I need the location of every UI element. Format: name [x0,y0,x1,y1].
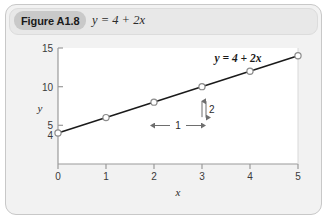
run-label: 1 [175,120,181,131]
equation-callout-label: y = 4 + 2x [213,52,262,65]
line-chart: 15 10 5 4 0 1 2 3 4 5 y x 1 2 y = 4 + 2x [0,0,327,220]
y-intercept-label: 4 [47,130,53,141]
y-tick-label-15: 15 [42,43,54,54]
x-tick-label-4: 4 [247,171,253,182]
rise-annotation: 2 [202,101,215,117]
y-axis-label: y [37,102,43,114]
rise-label: 2 [209,104,215,115]
x-axis-label: x [175,186,181,198]
data-point-marker [103,115,109,121]
x-tick-label-2: 2 [151,171,157,182]
data-point-marker [247,68,253,74]
run-annotation: 1 [155,118,201,133]
x-tick-label-1: 1 [103,171,109,182]
x-tick-label-5: 5 [295,171,301,182]
data-point-marker [151,99,157,105]
figure-panel: Figure A1.8 y = 4 + 2x [0,0,327,220]
x-axis [58,48,298,169]
data-point-marker [199,84,205,90]
x-tick-label-3: 3 [199,171,205,182]
data-point-marker [295,53,301,59]
data-point-marker [55,130,61,136]
x-tick-label-0: 0 [55,171,61,182]
y-tick-label-10: 10 [42,82,54,93]
y-axis [58,48,63,164]
